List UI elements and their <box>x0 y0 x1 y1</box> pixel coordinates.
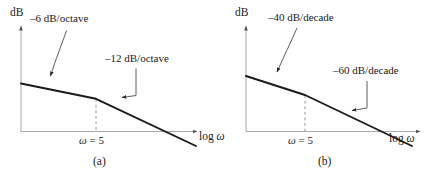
panel-b-annotation-minus40: –40 dB/decade <box>268 12 334 23</box>
panel-a-y-axis-label: dB <box>10 7 23 19</box>
panel-b-x-axis-label-prefix: log <box>389 132 407 144</box>
panel-b-breakpoint-symbol: ω <box>288 134 296 146</box>
figure-canvas <box>0 0 432 178</box>
panel-a-magnitude-curve <box>21 84 196 147</box>
panel-a-annotation-minus12: –12 dB/octave <box>105 53 169 64</box>
panel-a-x-axis-label-prefix: log <box>199 130 217 142</box>
panel-a-leader-minus12 <box>122 69 136 98</box>
panel-b <box>246 26 420 146</box>
panel-b-y-axis-label: dB <box>235 7 248 19</box>
panel-a-x-axis-label-symbol: ω <box>217 130 225 142</box>
panel-b-breakpoint-label: ω = 5 <box>288 135 313 146</box>
panel-b-leader-minus40 <box>277 28 297 72</box>
panel-a-x-axis-label: log ω <box>199 131 225 143</box>
panel-b-caption: (b) <box>318 156 331 168</box>
panel-b-magnitude-curve <box>246 76 412 146</box>
panel-a-annotation-minus6: –6 dB/octave <box>30 13 88 24</box>
panel-b-x-axis-label-symbol: ω <box>407 132 415 144</box>
panel-a <box>21 26 197 146</box>
panel-b-x-axis-label: log ω <box>389 133 415 145</box>
panel-b-breakpoint-value: = 5 <box>296 134 313 146</box>
panel-a-breakpoint-label: ω = 5 <box>79 135 104 146</box>
panel-b-annotation-minus60: –60 dB/decade <box>333 65 399 76</box>
panel-a-caption: (a) <box>93 156 106 168</box>
panel-a-leader-minus6 <box>51 31 67 77</box>
panel-a-breakpoint-symbol: ω <box>79 134 87 146</box>
bode-diagram-figure: dB –6 dB/octave –12 dB/octave ω = 5 log … <box>0 0 432 178</box>
panel-a-breakpoint-value: = 5 <box>87 134 104 146</box>
panel-b-leader-minus60 <box>352 81 367 111</box>
